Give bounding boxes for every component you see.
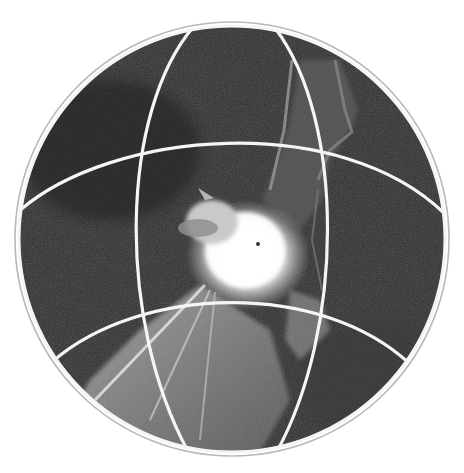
bat-globe-illustration xyxy=(0,0,464,473)
bat-photo xyxy=(0,0,464,473)
